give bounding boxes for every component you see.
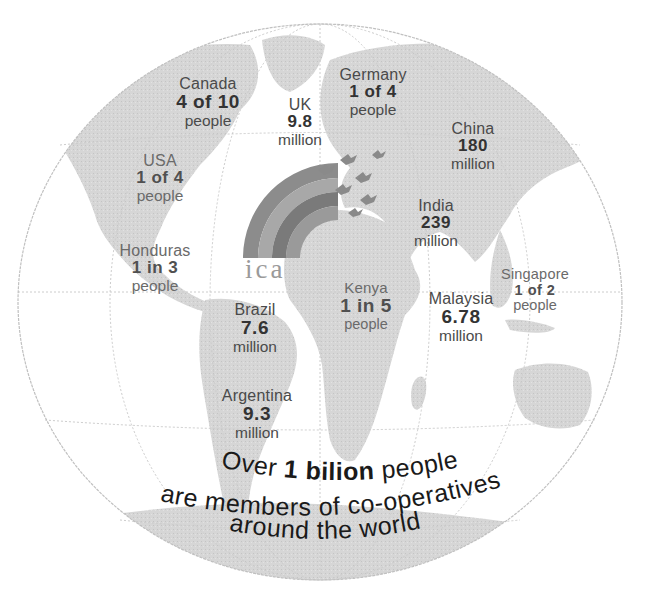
stat-unit: million — [278, 132, 322, 149]
stat-honduras: Honduras 1 in 3 people — [120, 242, 191, 294]
stat-unit: people — [340, 317, 392, 333]
stat-value: 6.78 — [429, 307, 494, 328]
madagascar-shape — [411, 376, 426, 409]
stat-argentina: Argentina 9.3 million — [222, 387, 292, 442]
stat-germany: Germany 1 of 4 people — [339, 66, 406, 118]
country-label: China — [451, 120, 495, 137]
country-label: UK — [278, 96, 322, 113]
country-label: Singapore — [501, 267, 569, 283]
stat-unit: million — [451, 156, 495, 173]
country-label: Malaysia — [429, 290, 494, 307]
stat-malaysia: Malaysia 6.78 million — [429, 290, 494, 345]
stat-brazil: Brazil 7.6 million — [233, 301, 277, 356]
stat-value: 1 of 4 — [339, 83, 406, 101]
country-label: Kenya — [340, 280, 392, 296]
ica-logo-text: ica — [245, 254, 285, 285]
stat-unit: people — [136, 188, 183, 205]
stat-value: 180 — [451, 137, 495, 155]
country-label: Canada — [176, 75, 240, 92]
stat-usa: USA 1 of 4 people — [136, 152, 183, 204]
stat-unit: million — [233, 339, 277, 356]
stat-india: India 239 million — [414, 197, 458, 249]
country-label: USA — [136, 152, 183, 169]
stat-value: 1 in 5 — [340, 296, 392, 317]
stat-unit: people — [176, 113, 240, 130]
country-label: India — [414, 197, 458, 214]
stat-value: 4 of 10 — [176, 92, 240, 113]
stat-unit: people — [120, 278, 191, 295]
stat-singapore: Singapore 1 of 2 people — [501, 267, 569, 314]
stat-unit: people — [339, 102, 406, 119]
stat-value: 239 — [414, 214, 458, 232]
stat-unit: people — [501, 298, 569, 314]
stat-unit: million — [429, 328, 494, 345]
stat-value: 1 in 3 — [120, 259, 191, 277]
stat-china: China 180 million — [451, 120, 495, 172]
country-label: Brazil — [233, 301, 277, 318]
stat-value: 9.3 — [222, 404, 292, 425]
country-label: Argentina — [222, 387, 292, 404]
stat-value: 1 of 4 — [136, 169, 183, 187]
stat-value: 7.6 — [233, 318, 277, 339]
stat-value: 1 of 2 — [501, 283, 569, 299]
country-label: Honduras — [120, 242, 191, 259]
indonesia-shape — [505, 319, 555, 332]
stat-canada: Canada 4 of 10 people — [176, 75, 240, 130]
stat-unit: million — [414, 233, 458, 250]
stat-value: 9.8 — [278, 113, 322, 131]
australia-shape — [513, 363, 592, 428]
country-label: Germany — [339, 66, 406, 83]
stat-uk: UK 9.8 million — [278, 96, 322, 148]
stat-unit: million — [222, 425, 292, 442]
greenland-shape — [262, 35, 325, 92]
stat-kenya: Kenya 1 in 5 people — [340, 280, 392, 332]
africa-shape — [284, 210, 420, 462]
